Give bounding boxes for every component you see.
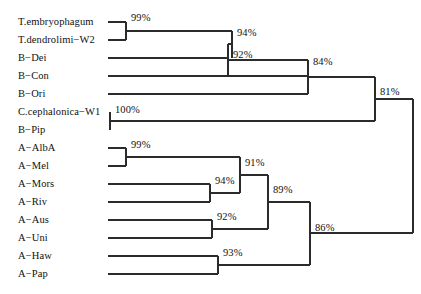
taxon-label-a-mors: A−Mors <box>18 179 54 190</box>
support-value-n99a: 99% <box>131 13 151 24</box>
support-value-n84: 84% <box>313 57 333 68</box>
support-value-n86: 86% <box>315 223 335 234</box>
phylogenetic-tree-figure: T.embryophagumT.dendrolimi−W2B−DeiB−ConB… <box>0 0 421 294</box>
taxon-label-a-pap: A−Pap <box>18 269 48 280</box>
support-value-n91: 91% <box>245 158 265 169</box>
support-value-n94b: 94% <box>215 176 235 187</box>
taxon-label-a-uni: A−Uni <box>18 233 48 244</box>
support-value-n100: 100% <box>115 105 140 116</box>
taxon-label-b-ori: B−Ori <box>18 89 45 100</box>
support-value-n89: 89% <box>273 185 293 196</box>
taxon-label-a-riv: A−Riv <box>18 197 47 208</box>
taxon-label-t-dendrolimi-w2: T.dendrolimi−W2 <box>18 35 95 46</box>
support-value-n99b: 99% <box>131 140 151 151</box>
taxon-label-b-dei: B−Dei <box>18 53 47 64</box>
taxon-label-a-mel: A−Mel <box>18 161 49 172</box>
taxon-label-b-con: B−Con <box>18 71 49 82</box>
support-value-n92a: 92% <box>233 50 253 61</box>
horizontal-branches <box>108 22 413 274</box>
taxon-label-a-haw: A−Haw <box>18 251 52 262</box>
taxon-label-b-pip: B−Pip <box>18 125 45 136</box>
support-value-n93: 93% <box>223 248 243 259</box>
taxon-label-t-embryophagum: T.embryophagum <box>18 17 94 28</box>
support-value-n94a: 94% <box>237 28 257 39</box>
taxon-label-a-alba: A−AlbA <box>18 143 55 154</box>
support-value-n81: 81% <box>380 87 400 98</box>
taxon-label-a-aus: A−Aus <box>18 215 49 226</box>
support-value-n92b: 92% <box>217 212 237 223</box>
taxon-label-c-cephalonica-w1: C.cephalonica−W1 <box>18 107 100 118</box>
